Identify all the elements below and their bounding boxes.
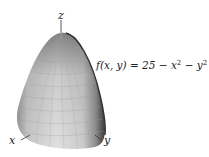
x-axis-label: x bbox=[9, 135, 15, 146]
formula-part: − y bbox=[181, 59, 202, 71]
paraboloid-figure: z x y f(x, y) = 25 − x2 − y2 bbox=[0, 0, 209, 157]
y-axis-label: y bbox=[104, 135, 110, 146]
formula-part: f(x, y) = 25 − x bbox=[96, 59, 177, 71]
formula-exponent: 2 bbox=[203, 59, 207, 67]
function-formula: f(x, y) = 25 − x2 − y2 bbox=[96, 60, 207, 71]
z-axis-label: z bbox=[58, 10, 64, 21]
